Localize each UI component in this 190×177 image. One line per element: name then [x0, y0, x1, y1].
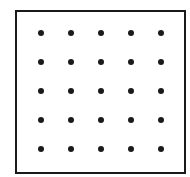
grid-dot [98, 59, 104, 65]
grid-dot [38, 59, 44, 65]
grid-dot [68, 30, 74, 36]
grid-dot [128, 30, 134, 36]
grid-dot [68, 59, 74, 65]
grid-dot [68, 117, 74, 123]
grid-dot [158, 88, 164, 94]
grid-dot [128, 88, 134, 94]
grid-dot [128, 59, 134, 65]
grid-dot [128, 146, 134, 152]
grid-dot [158, 117, 164, 123]
grid-dot [98, 117, 104, 123]
grid-dot [38, 146, 44, 152]
grid-dot [68, 146, 74, 152]
dot-grid-diagram [0, 0, 190, 177]
grid-dot [38, 117, 44, 123]
grid-dot [38, 88, 44, 94]
grid-dot [98, 30, 104, 36]
grid-dot [158, 146, 164, 152]
grid-dot [98, 88, 104, 94]
grid-dot [128, 117, 134, 123]
grid-dot [38, 30, 44, 36]
grid-dot [158, 30, 164, 36]
grid-dot [68, 88, 74, 94]
grid-dot [98, 146, 104, 152]
grid-dot [158, 59, 164, 65]
